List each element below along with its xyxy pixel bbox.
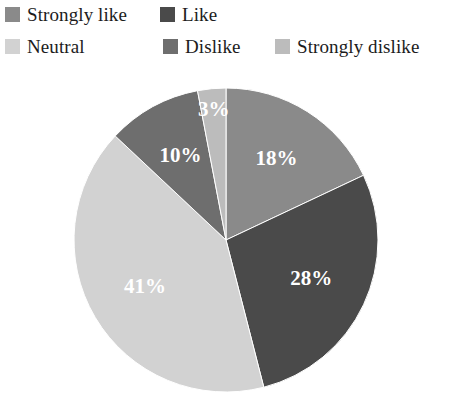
pie-slice-label: 3% — [198, 97, 230, 121]
pie-chart: 18%28%41%10%3% — [0, 0, 449, 404]
pie-slice-group — [74, 88, 378, 392]
pie-slice-label: 10% — [160, 143, 202, 167]
pie-chart-svg: 18%28%41%10%3% — [0, 0, 449, 404]
pie-slice-label: 41% — [124, 274, 166, 298]
pie-slice-label: 18% — [256, 146, 298, 170]
pie-slice-label: 28% — [290, 266, 332, 290]
